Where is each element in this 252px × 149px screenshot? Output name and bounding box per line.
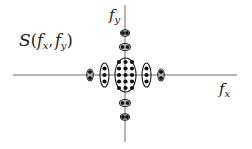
spectrum-diagram: S(fx,fy) fy fx: [0, 0, 252, 149]
sample-dot: [121, 115, 125, 119]
sample-dot: [123, 60, 127, 64]
sample-dot: [159, 70, 163, 74]
sample-dot: [159, 76, 163, 80]
sample-dot: [123, 86, 127, 90]
sample-dot: [102, 73, 106, 77]
sample-dot: [144, 73, 148, 77]
sample-dot: [121, 101, 125, 105]
sample-dot: [117, 86, 121, 90]
sample-dot: [130, 60, 134, 64]
sample-dot: [121, 31, 125, 35]
sample-dot: [102, 66, 106, 70]
sample-dot: [125, 115, 129, 119]
spectrum-label: S(fx,fy): [19, 30, 73, 51]
sample-dot: [125, 31, 129, 35]
sample-dot: [144, 79, 148, 83]
sample-dot: [102, 79, 106, 83]
sample-dot: [117, 66, 121, 70]
sample-dot: [130, 86, 134, 90]
sample-dot: [117, 60, 121, 64]
fy-axis-label: fy: [108, 6, 121, 25]
sample-dot: [121, 45, 125, 49]
sample-dot: [88, 76, 92, 80]
sample-dot: [130, 66, 134, 70]
fx-axis-label: fx: [218, 80, 231, 99]
sample-dot: [130, 79, 134, 83]
sample-dot: [123, 73, 127, 77]
sample-dot: [130, 73, 134, 77]
sample-dot: [123, 66, 127, 70]
sample-dot: [117, 79, 121, 83]
sample-dot: [144, 66, 148, 70]
sample-dot: [126, 45, 130, 49]
sample-dot: [88, 70, 92, 74]
sample-dot: [117, 73, 121, 77]
cluster-center: [115, 58, 136, 92]
sample-dot: [126, 101, 130, 105]
sample-dot: [123, 79, 127, 83]
